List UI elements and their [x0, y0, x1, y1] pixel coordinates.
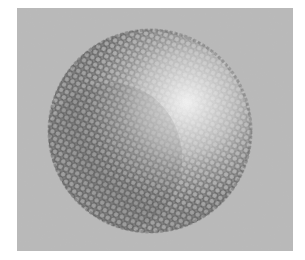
micrograph-image	[17, 8, 293, 251]
image-frame: Grayscale electron micrograph of a spher…	[0, 0, 305, 260]
sphere-particle	[17, 8, 293, 251]
